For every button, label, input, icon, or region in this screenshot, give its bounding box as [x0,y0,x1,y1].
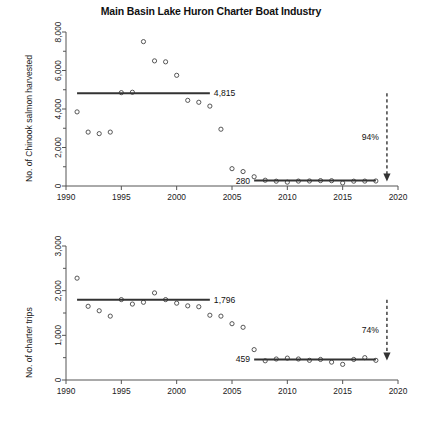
data-point [252,175,256,179]
data-point [97,309,101,313]
x-tick-label: 2000 [167,192,186,202]
plot-area-bottom: 199019952000200520102015202001,0002,0003… [0,232,422,426]
data-point [130,302,134,306]
x-tick-label: 2000 [167,386,186,396]
data-point [186,98,190,102]
x-tick-label: 2005 [223,386,242,396]
y-tick-label: 1,000 [53,325,63,346]
data-point [164,60,168,64]
data-point [141,300,145,304]
x-tick-label: 2020 [389,192,408,202]
y-tick-label: 3,000 [53,235,63,256]
data-point [241,325,245,329]
data-point [86,304,90,308]
data-point [86,130,90,134]
y-tick-label: 6,000 [53,60,63,81]
data-point [75,110,79,114]
y-tick-label: 8,000 [53,21,63,42]
data-point [197,305,201,309]
mean-label-late: 280 [236,176,251,186]
decline-arrow-head [383,352,390,360]
y-tick-label: 2,000 [53,280,63,301]
data-point [197,100,201,104]
data-point [97,132,101,136]
x-tick-label: 1995 [112,386,131,396]
percent-change-label: 94% [362,132,380,142]
x-tick-label: 1990 [57,386,76,396]
data-point [230,322,234,326]
y-tick-label: 2,000 [53,137,63,158]
panel-chinook-salmon-harvested: 199019952000200520102015202002,0004,0006… [0,20,422,215]
x-tick-label: 2015 [333,386,352,396]
data-point [108,130,112,134]
chart-title: Main Basin Lake Huron Charter Boat Indus… [0,5,422,17]
data-point [186,304,190,308]
data-point [219,314,223,318]
data-point [341,362,345,366]
data-point [219,127,223,131]
plot-area-top: 199019952000200520102015202002,0004,0006… [0,20,422,215]
data-point [75,276,79,280]
y-tick-label: 0 [53,183,63,188]
data-point [208,313,212,317]
x-tick-label: 2010 [278,386,297,396]
data-point [330,360,334,364]
x-tick-label: 2015 [333,192,352,202]
decline-arrow-head [383,174,390,182]
mean-label-late: 459 [236,354,251,364]
data-point [141,40,145,44]
x-tick-label: 2010 [278,192,297,202]
y-tick-label: 0 [53,377,63,382]
x-tick-label: 2005 [223,192,242,202]
data-point [175,73,179,77]
data-point [175,301,179,305]
x-tick-label: 1990 [57,192,76,202]
percent-change-label: 74% [362,325,380,335]
data-point [108,314,112,318]
figure-container: Main Basin Lake Huron Charter Boat Indus… [0,0,422,426]
panel-charter-trips: 199019952000200520102015202001,0002,0003… [0,232,422,426]
data-point [152,291,156,295]
mean-label-early: 4,815 [214,88,236,98]
data-point [152,59,156,63]
data-point [208,104,212,108]
data-point [252,348,256,352]
y-tick-label: 4,000 [53,98,63,119]
data-point [230,167,234,171]
x-tick-label: 2020 [389,386,408,396]
x-tick-label: 1995 [112,192,131,202]
mean-label-early: 1,796 [214,295,236,305]
data-point [241,169,245,173]
